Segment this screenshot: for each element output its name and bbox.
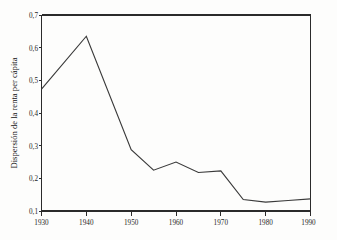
figure-container: Dispersión de la renta per cápita 0,7 0,…	[0, 0, 337, 240]
x-tick-label-1990: 1990	[301, 219, 316, 227]
y-axis-title-group: Dispersión de la renta per cápita	[9, 57, 19, 168]
y-tick-label-0.5: 0,5	[29, 77, 38, 85]
y-tick-label-0.1: 0,1	[29, 208, 38, 216]
x-tick-label-1960: 1960	[169, 219, 184, 227]
x-tick-label-1970: 1970	[214, 219, 229, 227]
y-tick-label-0.7: 0,7	[29, 12, 38, 20]
y-tick-label-0.6: 0,6	[29, 45, 38, 53]
plot-frame	[42, 15, 312, 211]
y-tick-label-0.2: 0,2	[29, 175, 38, 183]
y-tick-label-0.3: 0,3	[29, 143, 38, 151]
x-tick-label-1930: 1930	[34, 219, 49, 227]
line-chart: Dispersión de la renta per cápita 0,7 0,…	[0, 0, 337, 240]
data-series-line	[42, 36, 311, 202]
y-axis-tick-labels: 0,7 0,6 0,5 0,4 0,3 0,2 0,1	[29, 12, 38, 216]
x-tick-label-1950: 1950	[124, 219, 139, 227]
x-tick-label-1940: 1940	[79, 219, 94, 227]
x-tick-label-1980: 1980	[259, 219, 274, 227]
y-axis-title: Dispersión de la renta per cápita	[9, 57, 19, 168]
x-axis-ticks	[42, 211, 311, 216]
y-tick-label-0.4: 0,4	[29, 110, 38, 118]
x-axis-tick-labels: 1930 1940 1950 1960 1970 1980 1990	[34, 219, 316, 227]
